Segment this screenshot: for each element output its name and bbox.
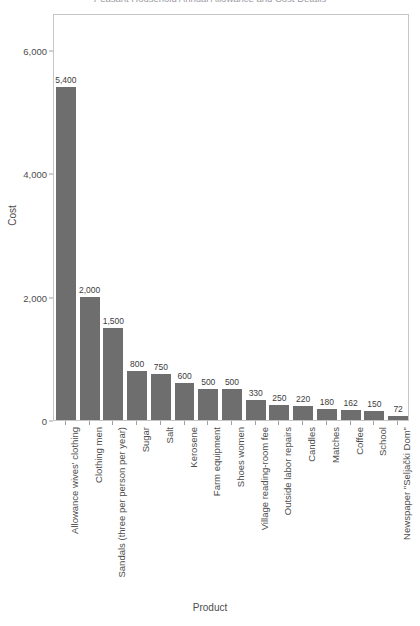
- bar-value-label: 220: [296, 394, 310, 404]
- bar-value-label: 500: [225, 377, 239, 387]
- bar[interactable]: [222, 389, 242, 420]
- bar[interactable]: [269, 405, 289, 420]
- x-tickmark: [397, 421, 398, 425]
- x-tickmark: [350, 421, 351, 425]
- bar-slot: 500: [196, 15, 220, 420]
- bar[interactable]: [198, 389, 218, 420]
- bar-slot: 220: [291, 15, 315, 420]
- bar[interactable]: [341, 410, 361, 420]
- bar-value-label: 150: [367, 399, 381, 409]
- x-axis-labels: Allowance wives' clothingClothing menSan…: [53, 427, 409, 597]
- x-tickmark: [112, 421, 113, 425]
- y-tick-label: 2,000: [23, 292, 47, 303]
- x-category-label: School: [377, 427, 388, 456]
- x-tickmark: [160, 421, 161, 425]
- bar-slot: 750: [149, 15, 173, 420]
- x-category-label: Salt: [164, 427, 175, 443]
- y-axis-ticks: 02,0004,0006,000: [0, 0, 53, 626]
- bar-value-label: 750: [154, 362, 168, 372]
- bar-slot: 72: [386, 15, 410, 420]
- bar-slot: 180: [315, 15, 339, 420]
- bar-chart: Peasant Household Annual Allowance and C…: [0, 0, 420, 626]
- bar[interactable]: [56, 87, 76, 420]
- x-tickmark: [136, 421, 137, 425]
- x-category-label: Village reading-room fee: [259, 427, 270, 530]
- bar[interactable]: [364, 411, 384, 420]
- x-category-label: Clothing men: [93, 427, 104, 483]
- bar[interactable]: [388, 416, 408, 420]
- bar[interactable]: [317, 409, 337, 420]
- bar-value-label: 1,500: [103, 316, 124, 326]
- x-category-label: Allowance wives' clothing: [69, 427, 80, 534]
- x-category-label: Farm equipment: [211, 427, 222, 496]
- chart-title: Peasant Household Annual Allowance and C…: [0, 0, 420, 5]
- bar[interactable]: [80, 297, 100, 420]
- bar-slot: 150: [363, 15, 387, 420]
- bar-slot: 250: [268, 15, 292, 420]
- x-category-label: Coffee: [354, 427, 365, 455]
- bar[interactable]: [103, 328, 123, 421]
- bar-slot: 330: [244, 15, 268, 420]
- x-tickmark: [255, 421, 256, 425]
- x-category-label: Sandals (three per person per year): [116, 427, 127, 578]
- bar-slot: 162: [339, 15, 363, 420]
- y-tick-label: 6,000: [23, 46, 47, 57]
- x-tickmark: [184, 421, 185, 425]
- x-tickmark: [278, 421, 279, 425]
- x-tickmark: [231, 421, 232, 425]
- bar-slot: 600: [173, 15, 197, 420]
- x-category-label: Candles: [306, 427, 317, 462]
- x-axis-tickmarks: [53, 421, 409, 426]
- x-tickmark: [302, 421, 303, 425]
- x-category-label: Kerosene: [188, 427, 199, 468]
- bar[interactable]: [127, 371, 147, 420]
- bar[interactable]: [246, 400, 266, 420]
- bar-value-label: 180: [320, 397, 334, 407]
- plot-panel: 5,4002,0001,5008007506005005003302502201…: [53, 14, 409, 421]
- bar-value-label: 800: [130, 359, 144, 369]
- x-tickmark: [65, 421, 66, 425]
- y-tick-label: 4,000: [23, 169, 47, 180]
- bar-value-label: 5,400: [55, 75, 76, 85]
- x-tickmark: [89, 421, 90, 425]
- x-category-label: Matches: [330, 427, 341, 463]
- bar-value-label: 2,000: [79, 285, 100, 295]
- bar-value-label: 250: [272, 393, 286, 403]
- bar-slot: 500: [220, 15, 244, 420]
- x-tickmark: [373, 421, 374, 425]
- x-tickmark: [207, 421, 208, 425]
- x-category-label: Shoes women: [235, 427, 246, 487]
- plot-area: 5,4002,0001,5008007506005005003302502201…: [54, 15, 408, 420]
- x-tickmark: [326, 421, 327, 425]
- y-tick-label: 0: [42, 416, 47, 427]
- x-category-label: Sugar: [140, 427, 151, 452]
- bar[interactable]: [151, 374, 171, 420]
- bar-slot: 1,500: [101, 15, 125, 420]
- bar-slot: 800: [125, 15, 149, 420]
- bar-value-label: 330: [249, 388, 263, 398]
- bar[interactable]: [175, 383, 195, 420]
- bar-value-label: 72: [393, 404, 402, 414]
- x-category-label: Outside labor repairs: [282, 427, 293, 515]
- x-category-label: Newspaper "Seljački Dom": [401, 427, 412, 540]
- bar-value-label: 162: [344, 398, 358, 408]
- bar-slot: 5,400: [54, 15, 78, 420]
- bar-slot: 2,000: [78, 15, 102, 420]
- bar-value-label: 600: [177, 371, 191, 381]
- bar-value-label: 500: [201, 377, 215, 387]
- x-axis-title: Product: [0, 602, 420, 613]
- bar[interactable]: [293, 406, 313, 420]
